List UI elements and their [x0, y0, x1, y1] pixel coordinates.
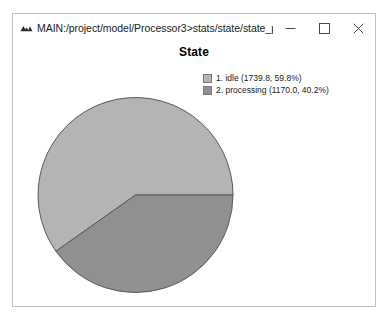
legend-item[interactable]: 1. idle (1739.8, 59.8%) [203, 73, 329, 84]
maximize-icon [319, 23, 330, 34]
title-bar-text-group: MAIN:/project/model/Processor3>stats/sta… [13, 22, 273, 35]
maximize-button[interactable] [307, 15, 341, 42]
window-controls [273, 14, 375, 42]
close-icon [353, 23, 364, 34]
plot-area: State 1. idle (1739.8, 59.8%) 2. process… [13, 42, 375, 306]
legend-swatch-processing [203, 86, 212, 95]
title-bar[interactable]: MAIN:/project/model/Processor3>stats/sta… [13, 14, 375, 42]
minimize-icon [285, 23, 296, 34]
chart-legend: 1. idle (1739.8, 59.8%) 2. processing (1… [203, 73, 329, 96]
minimize-button[interactable] [273, 15, 307, 42]
legend-label-processing: 2. processing (1170.0, 40.2%) [216, 85, 329, 96]
application-window: MAIN:/project/model/Processor3>stats/sta… [12, 13, 376, 307]
mountain-peaks-icon [20, 22, 33, 35]
window-title: MAIN:/project/model/Processor3>stats/sta… [37, 22, 273, 34]
legend-item[interactable]: 2. processing (1170.0, 40.2%) [203, 85, 329, 96]
legend-label-idle: 1. idle (1739.8, 59.8%) [216, 73, 302, 84]
legend-swatch-idle [203, 74, 212, 83]
close-button[interactable] [341, 15, 375, 42]
pie-slices [38, 97, 233, 292]
